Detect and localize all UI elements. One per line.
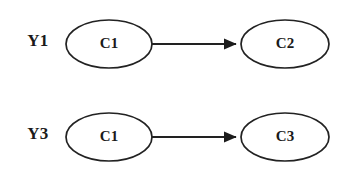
node-label-y3-source: C1: [100, 128, 119, 144]
node-label-y1-target: C2: [276, 35, 295, 51]
node-y1-target[interactable]: C2: [241, 20, 329, 68]
row-label-y1: Y1: [27, 31, 48, 50]
node-y1-source[interactable]: C1: [66, 20, 152, 68]
node-y3-target[interactable]: C3: [241, 113, 329, 161]
node-label-y1-source: C1: [100, 35, 119, 51]
graph-row-y3: Y3 C1 C3: [27, 113, 329, 161]
node-y3-source[interactable]: C1: [66, 113, 152, 161]
row-label-y3: Y3: [27, 124, 48, 143]
node-label-y3-target: C3: [276, 128, 295, 144]
graph-row-y1: Y1 C1 C2: [27, 20, 329, 68]
diagram-canvas: Y1 C1 C2 Y3 C1 C3: [0, 0, 344, 178]
causal-graph-figure: Y1 C1 C2 Y3 C1 C3: [0, 0, 344, 178]
